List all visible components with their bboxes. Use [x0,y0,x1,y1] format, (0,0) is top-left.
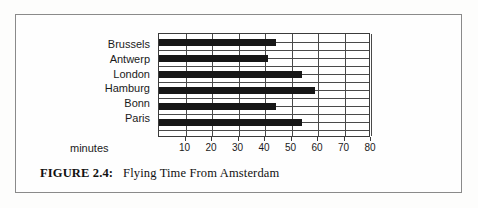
bar-hamburg [159,87,315,94]
x-tick-label-30: 30 [227,142,249,153]
x-tick-label-60: 60 [306,142,328,153]
horizontal-gridline-8 [159,98,369,99]
x-axis-title: minutes [70,142,109,154]
bar-london [159,71,302,78]
figure-caption-text: Flying Time From Amsterdam [123,166,279,180]
tick-mark-80 [370,137,371,141]
category-label-paris: Paris [125,110,150,127]
category-axis-labels: BrusselsAntwerpLondonHamburgBonnParis [70,33,154,137]
horizontal-gridline-4 [159,66,369,67]
horizontal-gridline-6 [159,82,369,83]
x-tick-label-80: 80 [359,142,381,153]
tick-mark-10 [185,137,186,141]
figure-caption: FIGURE 2.4: Flying Time From Amsterdam [40,166,279,181]
bar-bonn [159,103,276,110]
bar-antwerp [159,55,268,62]
horizontal-gridline-12 [159,130,369,131]
tick-mark-30 [238,137,239,141]
bar-paris [159,119,302,126]
x-tick-label-40: 40 [253,142,275,153]
tick-mark-40 [264,137,265,141]
tick-mark-60 [317,137,318,141]
horizontal-gridline-2 [159,50,369,51]
x-tick-label-50: 50 [280,142,302,153]
x-tick-label-10: 10 [174,142,196,153]
figure-container: BrusselsAntwerpLondonHamburgBonnParis 10… [0,0,478,208]
tick-mark-20 [211,137,212,141]
tick-mark-50 [291,137,292,141]
x-axis-tick-labels: 1020304050607080 [60,142,390,158]
tick-mark-70 [344,137,345,141]
vertical-gridline-80 [371,34,372,136]
horizontal-gridline-10 [159,114,369,115]
figure-caption-label: FIGURE 2.4: [40,166,113,180]
x-tick-label-70: 70 [333,142,355,153]
bar-brussels [159,39,276,46]
x-tick-label-20: 20 [200,142,222,153]
plot-area [158,33,370,137]
